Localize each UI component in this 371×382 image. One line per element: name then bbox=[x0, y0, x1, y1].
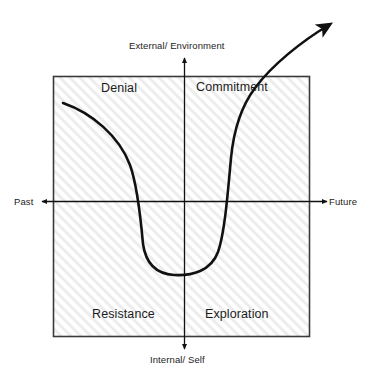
axis-label-past: Past bbox=[14, 197, 33, 207]
axis-label-external-environment: External/ Environment bbox=[129, 41, 225, 51]
axis-label-internal-self: Internal/ Self bbox=[150, 355, 205, 365]
diagram-canvas bbox=[0, 0, 371, 382]
quadrant-label-resistance: Resistance bbox=[92, 308, 155, 321]
axis-label-future: Future bbox=[329, 197, 357, 207]
plot-area-hatched bbox=[54, 77, 310, 337]
change-curve-diagram: External/ Environment Internal/ Self Pas… bbox=[0, 0, 371, 382]
quadrant-label-denial: Denial bbox=[101, 82, 137, 95]
quadrant-label-exploration: Exploration bbox=[205, 308, 269, 321]
quadrant-label-commitment: Commitment bbox=[196, 81, 268, 94]
